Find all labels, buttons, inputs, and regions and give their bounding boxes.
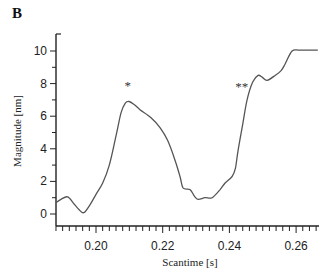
magnitude-line <box>56 50 318 213</box>
peak-annotations: *** <box>124 78 248 95</box>
y-tick-label: 8 <box>40 77 47 91</box>
y-tick-label: 10 <box>34 44 48 58</box>
y-tick-label: 0 <box>40 207 47 221</box>
y-tick-label: 6 <box>40 109 47 123</box>
x-tick-label: 0.22 <box>151 239 175 253</box>
x-axis-title: Scantime [s] <box>162 256 217 268</box>
y-tick-label: 2 <box>40 174 47 188</box>
axes: 02468100.200.220.240.26 <box>34 34 319 253</box>
double-asterisk-annotation: ** <box>235 79 248 94</box>
x-tick-label: 0.26 <box>284 239 308 253</box>
x-tick-label: 0.20 <box>84 239 108 253</box>
asterisk-annotation: * <box>124 78 131 93</box>
line-chart: 02468100.200.220.240.26 *** Scantime [s]… <box>0 0 328 276</box>
y-tick-label: 4 <box>40 142 47 156</box>
y-axis-title: Magnitude [nm] <box>11 95 23 167</box>
x-tick-label: 0.24 <box>218 239 242 253</box>
